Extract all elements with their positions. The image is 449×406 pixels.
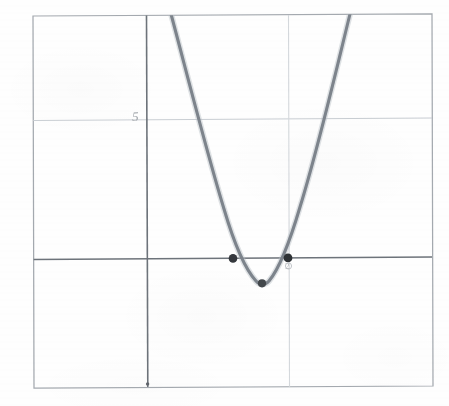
plot-frame-border	[33, 14, 433, 388]
parabola-halo	[171, 14, 350, 284]
scanned-graph-sheet: 5 2	[0, 0, 449, 406]
y-axis-tick-label-5: 5	[132, 110, 139, 123]
axes	[33, 15, 432, 387]
y-axis-bottom-tick	[146, 382, 149, 385]
point-left-root	[229, 254, 238, 263]
point-vertex	[258, 279, 266, 287]
gridlines	[33, 15, 432, 387]
parabola-curve	[171, 14, 350, 284]
right-root-annotation-label: 2	[285, 262, 290, 271]
gridline-vertical-right	[289, 15, 290, 387]
parabola-path	[171, 14, 350, 284]
parabola-graph	[0, 0, 449, 406]
gridline-horizontal-5	[33, 118, 432, 121]
y-axis	[147, 15, 148, 387]
